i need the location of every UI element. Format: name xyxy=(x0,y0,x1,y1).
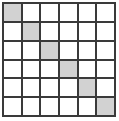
grid-cell-empty xyxy=(23,98,40,115)
grid-cell-empty xyxy=(23,61,40,78)
grid-cell-empty xyxy=(97,79,114,96)
grid-cell-empty xyxy=(4,61,21,78)
grid-cell-empty xyxy=(41,4,58,21)
grid-cell-empty xyxy=(41,79,58,96)
grid-cell-empty xyxy=(79,42,96,59)
grid-cell-empty xyxy=(97,4,114,21)
grid-cell-empty xyxy=(4,79,21,96)
grid-cell-shaded xyxy=(23,23,40,40)
grid-cell-shaded xyxy=(97,98,114,115)
grid-cell-empty xyxy=(97,42,114,59)
grid-cell-empty xyxy=(60,79,77,96)
grid-cell-shaded xyxy=(60,61,77,78)
grid-cell-empty xyxy=(60,42,77,59)
grid-cell-empty xyxy=(4,98,21,115)
grid-cell-empty xyxy=(79,98,96,115)
grid-cell-empty xyxy=(60,23,77,40)
grid-cell-empty xyxy=(23,79,40,96)
grid-figure xyxy=(0,0,119,121)
grid-cell-empty xyxy=(79,61,96,78)
grid-cell-empty xyxy=(97,23,114,40)
grid-cell-empty xyxy=(41,23,58,40)
grid-cell-shaded xyxy=(79,79,96,96)
grid-cell-empty xyxy=(4,23,21,40)
grid-cell-empty xyxy=(60,98,77,115)
grid-cell-empty xyxy=(97,61,114,78)
grid-cell-empty xyxy=(23,4,40,21)
grid-cell-empty xyxy=(4,42,21,59)
grid-cell-shaded xyxy=(41,42,58,59)
grid-cell-shaded xyxy=(4,4,21,21)
grid-cell-empty xyxy=(79,4,96,21)
grid-table xyxy=(2,2,116,117)
grid-cell-empty xyxy=(41,98,58,115)
grid-cell-empty xyxy=(41,61,58,78)
grid-cell-empty xyxy=(60,4,77,21)
grid-cell-empty xyxy=(23,42,40,59)
grid-cell-empty xyxy=(79,23,96,40)
